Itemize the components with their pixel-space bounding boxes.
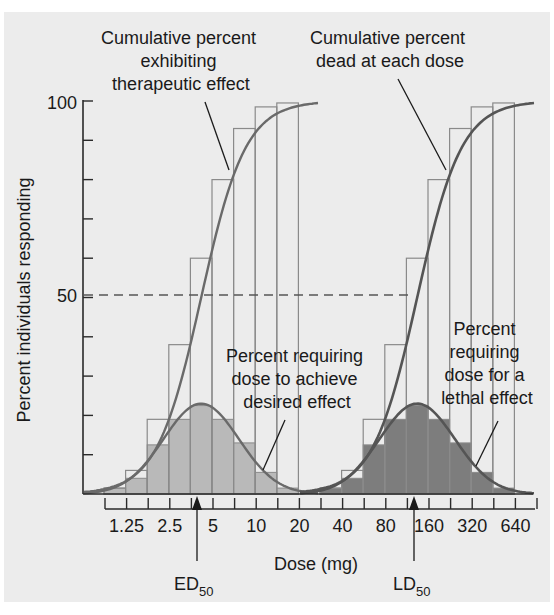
cumulative-step <box>277 103 299 494</box>
x-axis-label: Dose (mg) <box>274 554 358 574</box>
histogram-bar <box>190 406 212 494</box>
x-tick-label: 320 <box>457 516 487 536</box>
ld50-subscript: 50 <box>416 584 430 599</box>
svg-text:Percent requiring: Percent requiring dose for a lethal effe… <box>441 319 533 408</box>
histogram-bar <box>428 419 450 494</box>
svg-text:ED50: ED50 <box>174 574 213 599</box>
svg-text:Cumulative percent dead: Cumulative percent dead at each dose <box>310 28 470 71</box>
histogram-bar <box>212 419 234 494</box>
x-tick-label: 5 <box>208 516 218 536</box>
cumulative-step <box>493 103 515 494</box>
ed50-marker: ED50 <box>174 496 213 599</box>
svg-text:Cumulative percent exhib: Cumulative percent exhibiting therapeuti… <box>101 28 261 94</box>
x-tick-label: 10 <box>246 516 266 536</box>
y-axis: 100 50 Percent individuals responding <box>14 93 533 494</box>
dose-response-chart: 100 50 Percent individuals responding 1.… <box>0 0 554 615</box>
histogram-bar <box>147 445 169 494</box>
histogram-therapeutic <box>104 406 298 494</box>
ed50-subscript: 50 <box>199 584 213 599</box>
ld50-label: LD <box>393 574 416 594</box>
x-tick-label: 20 <box>289 516 309 536</box>
annotation-cumulative-dead: Cumulative percent dead at each dose <box>310 28 470 170</box>
histogram-bar <box>406 406 428 494</box>
x-tick-label: 1.25 <box>109 516 144 536</box>
ld50-marker: LD50 <box>393 496 430 599</box>
histogram-lethal <box>320 406 514 494</box>
histogram-bar <box>363 445 385 494</box>
ytick-100: 100 <box>47 93 77 113</box>
x-tick-label: 80 <box>376 516 396 536</box>
histogram-bar <box>255 472 277 494</box>
cumulative-step <box>234 129 256 494</box>
x-axis: 1.252.5510204080160320640 Dose (mg) <box>105 498 537 574</box>
x-tick-label: 2.5 <box>157 516 182 536</box>
cumulative-step <box>471 107 493 494</box>
x-tick-label: 640 <box>500 516 530 536</box>
ytick-50: 50 <box>57 286 77 306</box>
histogram-bar <box>234 443 256 494</box>
histogram-bar <box>450 443 472 494</box>
histogram-bar <box>471 472 493 494</box>
svg-text:Percent requiring dose t: Percent requiring dose to achieve desire… <box>226 346 368 412</box>
histogram-bar <box>385 419 407 494</box>
x-tick-label: 160 <box>414 516 444 536</box>
x-tick-label: 40 <box>333 516 353 536</box>
y-axis-label: Percent individuals responding <box>14 177 34 422</box>
annotation-cumulative-therapeutic: Cumulative percent exhibiting therapeuti… <box>101 28 261 170</box>
svg-text:LD50: LD50 <box>393 574 430 599</box>
histogram-bar <box>169 419 191 494</box>
cumulative-step <box>255 107 277 494</box>
cumulative-step <box>450 129 472 494</box>
ed50-label: ED <box>174 574 199 594</box>
